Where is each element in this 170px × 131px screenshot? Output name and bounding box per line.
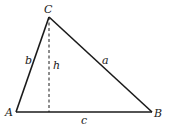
vertex-label-b: B: [153, 107, 162, 120]
side-b: [16, 17, 49, 112]
side-a: [49, 17, 152, 112]
side-label-a: a: [102, 54, 109, 67]
vertex-label-c: C: [44, 3, 53, 16]
vertex-label-a: A: [4, 106, 13, 119]
altitude-label-h: h: [53, 59, 60, 72]
triangle-diagram: C A B b h a c: [0, 0, 170, 131]
side-label-b: b: [25, 54, 32, 67]
side-label-c: c: [81, 114, 87, 127]
